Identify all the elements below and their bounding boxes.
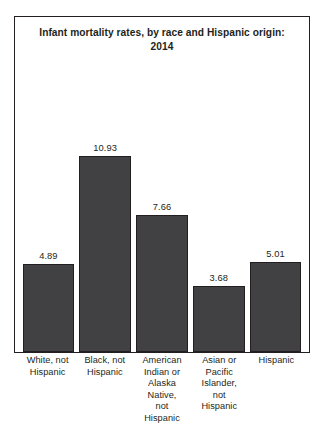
bar-value-label: 7.66 bbox=[153, 201, 172, 213]
bar-group-asian-pacific-islander-not-hispanic[interactable]: 3.68 bbox=[193, 17, 245, 352]
bar-rect[interactable] bbox=[136, 215, 188, 352]
bar-value-label: 10.93 bbox=[93, 142, 117, 154]
bar-rect[interactable] bbox=[193, 286, 245, 352]
bar-rect[interactable] bbox=[79, 156, 131, 352]
bar-rect[interactable] bbox=[250, 262, 302, 352]
bar-group-black-not-hispanic[interactable]: 10.93 bbox=[79, 17, 131, 352]
bar-value-label: 5.01 bbox=[266, 248, 285, 260]
plot-area: 4.89 10.93 7.66 3.68 5.01 bbox=[15, 17, 309, 352]
bar-value-label: 3.68 bbox=[210, 272, 229, 284]
clipped-header-text bbox=[0, 0, 321, 7]
bar-group-hispanic[interactable]: 5.01 bbox=[250, 17, 302, 352]
x-axis-label-white-not-hispanic: White, not Hispanic bbox=[22, 355, 74, 425]
x-axis-label-asian-pacific-islander-not-hispanic: Asian or Pacific Islander, not Hispanic bbox=[193, 355, 245, 425]
chart-frame: Infant mortality rates, by race and Hisp… bbox=[14, 16, 310, 353]
x-axis-category-labels: White, not Hispanic Black, not Hispanic … bbox=[14, 355, 310, 425]
bar-group-american-indian-alaska-native-not-hispanic[interactable]: 7.66 bbox=[136, 17, 188, 352]
bar-value-label: 4.89 bbox=[39, 250, 58, 262]
x-axis-label-black-not-hispanic: Black, not Hispanic bbox=[79, 355, 131, 425]
x-axis-label-hispanic: Hispanic bbox=[250, 355, 302, 425]
bar-rect[interactable] bbox=[23, 264, 75, 352]
bar-group-white-not-hispanic[interactable]: 4.89 bbox=[23, 17, 75, 352]
x-axis-label-american-indian-alaska-native-not-hispanic: American Indian or Alaska Native, not Hi… bbox=[136, 355, 188, 425]
